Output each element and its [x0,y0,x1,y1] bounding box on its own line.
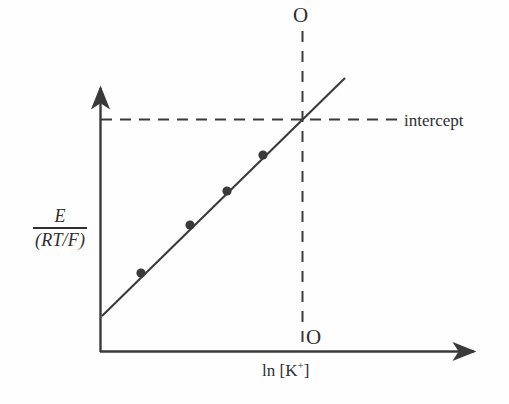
origin-top-label: O [293,5,308,26]
x-axis-label-text: ln [K [262,361,297,380]
data-point [258,150,267,159]
nernst-plot-figure: O O ln [K+] intercept E (RT/F) [0,0,509,404]
x-axis-label-closing: ] [304,361,310,380]
intercept-label: intercept [404,112,463,129]
data-point [136,268,145,277]
data-point [185,220,194,229]
plot-canvas [0,0,509,404]
y-axis-label-numerator: E [48,207,73,227]
y-axis-label: E (RT/F) [33,207,87,249]
origin-bottom-label: O [306,327,321,348]
regression-line [102,78,345,316]
y-axis-label-denominator: (RT/F) [33,229,87,249]
x-axis-label: ln [K+] [262,362,309,379]
data-point [222,186,231,195]
